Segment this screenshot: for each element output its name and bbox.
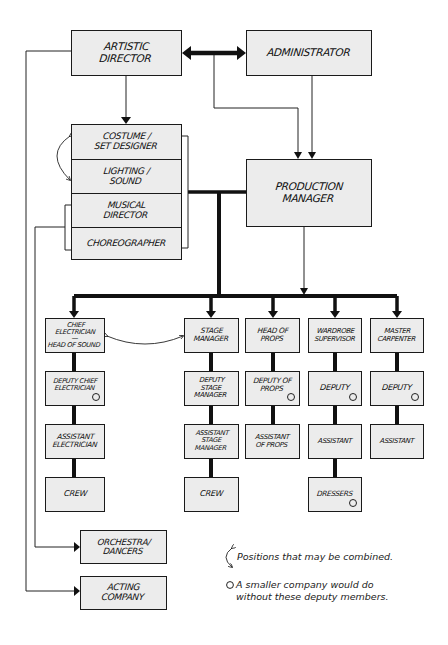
costume-set-designer-box: COSTUME / SET DESIGNER [72, 125, 181, 159]
optional-deputy-marker-icon [349, 499, 357, 507]
acting-company-label: ACTING COMPANY [101, 583, 145, 603]
acting-company-box: ACTING COMPANY [80, 576, 167, 610]
stage-manager-label: STAGE MANAGER [193, 327, 230, 343]
costume-set-designer-label: COSTUME / SET DESIGNER [94, 132, 159, 152]
deputy-chief-electrician-label: DEPUTY CHIEF ELECTRICIAN [52, 378, 98, 393]
wardrobe-supervisor-box: WARDROBE SUPERVISOR [308, 318, 362, 353]
carpenter-deputy-box: DEPUTY [370, 371, 424, 406]
deputy-of-props-box: DEPUTY OF PROPS [245, 371, 300, 406]
dressers-label: DRESSERS [317, 490, 353, 498]
lighting-sound-label: LIGHTING / SOUND [102, 167, 150, 187]
optional-deputy-marker-icon [92, 393, 100, 401]
production-manager-label: PRODUCTION MANAGER [274, 181, 344, 204]
carpenter-assistant-box: ASSISTANT [370, 424, 424, 459]
deputy-chief-electrician-box: DEPUTY CHIEF ELECTRICIAN [45, 371, 105, 406]
assistant-of-props-label: ASSISTANT OF PROPS [255, 434, 291, 449]
musical-director-label: MUSICAL DIRECTOR [103, 201, 149, 221]
optional-deputy-marker-icon [411, 393, 419, 401]
assistant-of-props-box: ASSISTANT OF PROPS [245, 424, 300, 459]
legend-combined-positions: Positions that may be combined. [237, 551, 393, 563]
stage-crew-label: CREW [200, 490, 224, 499]
orchestra-dancers-box: ORCHESTRA/ DANCERS [80, 530, 167, 564]
carpenter-deputy-label: DEPUTY [382, 384, 413, 393]
wardrobe-deputy-box: DEPUTY [308, 371, 362, 406]
deputy-of-props-label: DEPUTY OF PROPS [252, 377, 292, 393]
master-carpenter-label: MASTER CARPENTER [377, 328, 417, 343]
artistic-director-label: ARTISTIC DIRECTOR [99, 41, 153, 64]
assistant-electrician-label: ASSISTANT ELECTRICIAN [52, 433, 98, 449]
legend-deputy-members: A smaller company would do without these… [236, 579, 389, 603]
artistic-director-box: ARTISTIC DIRECTOR [71, 30, 182, 76]
orchestra-dancers-label: ORCHESTRA/ DANCERS [96, 538, 151, 557]
chief-electrician-box: CHIEF ELECTRICIAN — HEAD of SOUND [45, 318, 105, 353]
choreographer-label: CHOREOGRAPHER [87, 239, 167, 249]
wardrobe-deputy-label: DEPUTY [320, 384, 351, 393]
choreographer-box: CHOREOGRAPHER [72, 227, 181, 260]
stage-manager-box: STAGE MANAGER [184, 318, 239, 353]
head-of-props-box: HEAD OF PROPS [245, 318, 300, 353]
org-chart: ARTISTIC DIRECTOR ADMINISTRATOR COSTUME … [0, 0, 448, 645]
optional-deputy-marker-icon [287, 393, 295, 401]
assistant-stage-manager-label: ASSISTANT STAGE MANAGER [194, 430, 229, 452]
administrator-label: ADMINISTRATOR [267, 47, 351, 59]
production-manager-box: PRODUCTION MANAGER [246, 159, 372, 227]
master-carpenter-box: MASTER CARPENTER [370, 318, 424, 353]
musical-director-box: MUSICAL DIRECTOR [72, 193, 181, 227]
electrical-crew-label: CREW [63, 490, 87, 499]
dressers-box: DRESSERS [308, 477, 362, 512]
electrical-crew-box: CREW [45, 477, 105, 512]
optional-deputy-marker-icon [349, 393, 357, 401]
assistant-electrician-box: ASSISTANT ELECTRICIAN [45, 424, 105, 459]
chief-electrician-label: CHIEF ELECTRICIAN — HEAD of SOUND [48, 322, 103, 348]
creative-team-stack: COSTUME / SET DESIGNER LIGHTING / SOUND … [71, 124, 182, 260]
deputy-stage-manager-box: DEPUTY STAGE MANAGER [184, 371, 239, 406]
stage-crew-box: CREW [184, 477, 239, 512]
carpenter-assistant-label: ASSISTANT [380, 438, 415, 446]
deputy-stage-manager-label: DEPUTY STAGE MANAGER [194, 377, 229, 400]
head-of-props-label: HEAD OF PROPS [256, 327, 289, 343]
administrator-box: ADMINISTRATOR [246, 30, 372, 76]
wardrobe-supervisor-label: WARDROBE SUPERVISOR [314, 328, 356, 343]
lighting-sound-box: LIGHTING / SOUND [72, 159, 181, 193]
assistant-stage-manager-box: ASSISTANT STAGE MANAGER [184, 424, 239, 459]
wardrobe-assistant-box: ASSISTANT [308, 424, 362, 459]
wardrobe-assistant-label: ASSISTANT [318, 438, 353, 446]
